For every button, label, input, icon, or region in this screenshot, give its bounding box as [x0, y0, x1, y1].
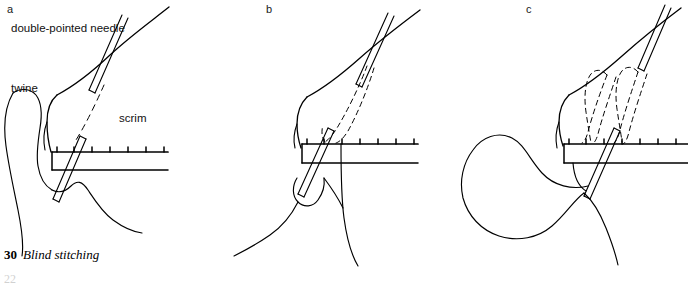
page-folio: 22 — [4, 272, 16, 283]
panel-letter-c: c — [526, 3, 532, 15]
caption-number: 30 — [4, 247, 17, 262]
illustration-canvas — [0, 0, 688, 283]
caption-text: Blind stitching — [23, 247, 99, 262]
panel-a-drawing — [5, 7, 169, 256]
callout-scrim: scrim — [119, 112, 146, 124]
panel-letter-a: a — [7, 3, 13, 15]
panel-letter-b: b — [266, 3, 272, 15]
callout-double-pointed-needle: double-pointed needle — [11, 22, 125, 34]
panel-c-drawing — [461, 5, 688, 265]
callout-twine: twine — [11, 82, 38, 94]
figure-blind-stitching: a b c double-pointed needle twine scrim … — [0, 0, 688, 283]
figure-caption: 30Blind stitching — [4, 247, 99, 263]
panel-b-drawing — [234, 10, 420, 266]
